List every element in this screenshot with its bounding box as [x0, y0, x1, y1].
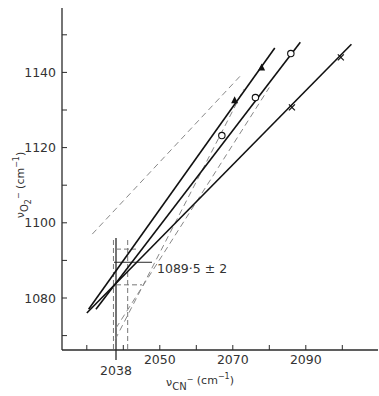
- error-dashed-fit-line: [115, 89, 243, 339]
- axis-labels: 1089·5 ± 2 νCN− (cm−1)νO2− (cm−1): [12, 152, 234, 392]
- chart-svg: 10801100112011402050207020902038 1089·5 …: [0, 0, 379, 396]
- x-axis-title: νCN− (cm−1): [166, 372, 234, 392]
- y-tick-label: 1100: [24, 215, 56, 230]
- y-tick-label: 1080: [24, 291, 56, 306]
- intersection-annotation: 1089·5 ± 2: [157, 261, 227, 276]
- circle-marker: [288, 50, 294, 56]
- x-tick-label: 2090: [290, 352, 322, 367]
- x-tick-label: 2070: [217, 352, 249, 367]
- axes: 10801100112011402050207020902038: [24, 8, 378, 378]
- chart: 10801100112011402050207020902038 1089·5 …: [0, 0, 379, 396]
- circle-marker: [219, 132, 225, 138]
- x-special-label: 2038: [100, 363, 132, 378]
- y-tick-label: 1120: [24, 140, 56, 155]
- error-dashed-fit-line: [92, 76, 240, 234]
- y-axis-title: νO2− (cm−1): [12, 152, 33, 218]
- error-dashed-fit-line: [116, 87, 269, 328]
- circle-marker: [252, 94, 258, 100]
- x-tick-label: 2050: [144, 352, 176, 367]
- triangle-marker: [258, 64, 265, 71]
- y-tick-label: 1140: [24, 65, 56, 80]
